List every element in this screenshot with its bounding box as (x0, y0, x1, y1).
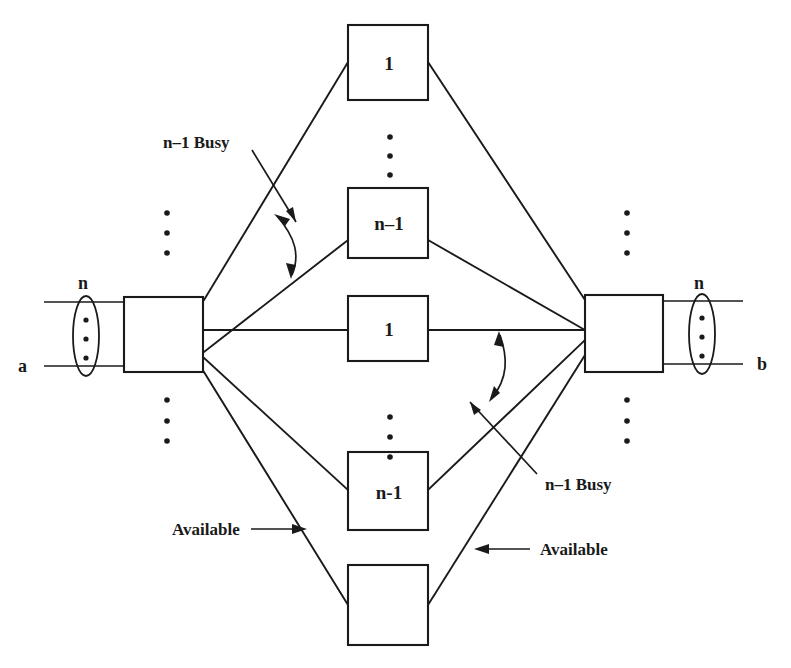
box-center-1-label: 1 (384, 319, 394, 340)
right-bundle-count-label: n (694, 273, 704, 293)
box-center-1[interactable]: 1 (348, 296, 428, 361)
available-left-label: Available (172, 520, 240, 539)
left-lower-dot-2 (164, 418, 170, 424)
left-lower-dot-3 (164, 438, 170, 444)
busy-right-arc-head-upper (494, 331, 504, 347)
right-fan-links (428, 62, 585, 605)
right-terminal-group: n b (663, 273, 767, 374)
mid-upper-ellipsis (387, 134, 393, 178)
left-terminal-group: n a (18, 273, 124, 376)
left-bundle-dot-2 (83, 336, 88, 341)
right-bundle-ellipse (689, 294, 715, 374)
mid-upper-dot-3 (387, 172, 393, 178)
right-bundle-dot-3 (699, 353, 704, 358)
right-lower-ellipsis (624, 397, 630, 444)
terminal-a-label: a (18, 356, 27, 376)
annotation-available-right: Available (474, 540, 608, 559)
mid-upper-dot-1 (387, 134, 393, 140)
right-bundle-dot-2 (699, 334, 704, 339)
switching-network-diagram: n a n b (0, 0, 791, 668)
right-upper-dot-1 (624, 210, 630, 216)
right-switch-rect[interactable] (585, 295, 663, 372)
right-lower-dot-2 (624, 418, 630, 424)
right-switch-box[interactable] (585, 295, 663, 372)
middle-stage-boxes: 1 n–1 1 n-1 (348, 25, 428, 645)
left-bundle-dot-1 (83, 317, 88, 322)
box-bottom-blank-rect[interactable] (348, 565, 428, 645)
terminal-b-label: b (757, 354, 767, 374)
left-switch-box[interactable] (124, 297, 203, 372)
link-box-upper-n-minus-1-to-right (428, 240, 585, 330)
mid-lower-dot-1 (387, 414, 393, 420)
link-left-to-box-lower-n-minus-1 (204, 358, 348, 490)
left-upper-dot-1 (164, 210, 170, 216)
available-right-arrowhead (474, 544, 489, 554)
box-bottom-blank[interactable] (348, 565, 428, 645)
box-lower-n-minus-1-label: n-1 (376, 482, 402, 503)
left-upper-ellipsis (164, 210, 170, 256)
left-lower-dot-1 (164, 397, 170, 403)
busy-left-arc-head-lower (286, 263, 296, 279)
right-upper-ellipsis (624, 210, 630, 256)
busy-left-arc-head-upper (274, 214, 290, 226)
right-upper-dot-2 (624, 230, 630, 236)
box-top-1[interactable]: 1 (348, 25, 428, 100)
left-bundle-dot-3 (83, 355, 88, 360)
box-lower-n-minus-1[interactable]: n-1 (348, 452, 428, 530)
link-box-top-1-to-right (428, 62, 585, 300)
busy-left-label: n–1 Busy (163, 133, 230, 152)
link-left-to-box-bottom-blank (204, 372, 348, 605)
right-lower-dot-3 (624, 438, 630, 444)
box-top-1-label: 1 (384, 53, 394, 74)
right-lower-dot-1 (624, 397, 630, 403)
mid-upper-dot-2 (387, 153, 393, 159)
left-lower-ellipsis (164, 397, 170, 444)
annotation-available-left: Available (172, 520, 307, 539)
link-box-lower-n-minus-1-to-right (428, 340, 585, 490)
left-switch-rect[interactable] (124, 297, 203, 372)
busy-right-label: n–1 Busy (545, 475, 612, 494)
figure-root: n a n b (0, 0, 791, 668)
left-upper-dot-2 (164, 230, 170, 236)
left-bundle-ellipse (73, 296, 99, 376)
left-upper-dot-3 (164, 250, 170, 256)
right-upper-dot-3 (624, 250, 630, 256)
mid-lower-dot-3 (387, 454, 393, 460)
link-left-to-box-top-1 (204, 62, 348, 300)
left-bundle-count-label: n (78, 273, 88, 293)
right-bundle-dot-1 (699, 315, 704, 320)
mid-lower-dot-2 (387, 434, 393, 440)
box-upper-n-minus-1[interactable]: n–1 (348, 188, 428, 258)
link-left-to-box-upper-n-minus-1 (204, 240, 348, 352)
box-upper-n-minus-1-label: n–1 (374, 213, 404, 234)
busy-right-leader (470, 402, 537, 474)
available-right-label: Available (540, 540, 608, 559)
